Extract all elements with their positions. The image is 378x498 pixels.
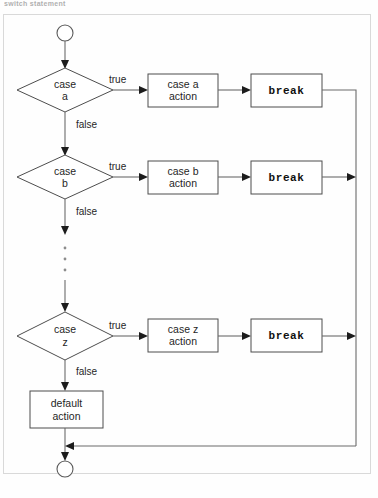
decision-case-z-line2: z: [62, 336, 67, 348]
arrowhead-break-z-to-rail: [347, 332, 356, 340]
action-case-a-line2: action: [169, 90, 197, 102]
decision-case-b-line2: b: [62, 177, 68, 189]
end-terminator: [57, 461, 73, 477]
arrowhead-action-a-to-break-a: [242, 86, 251, 94]
arrowhead-action-z-to-break-z: [242, 332, 251, 340]
label-false-case-a: false: [76, 119, 98, 130]
action-case-z-line2: action: [169, 335, 197, 347]
arrowhead-case-a-true: [139, 86, 148, 94]
break-case-b-label: break: [268, 172, 304, 184]
label-true-case-a: true: [109, 74, 127, 85]
break-case-a-label: break: [268, 85, 304, 97]
arrowhead-case-z-false: [61, 382, 69, 391]
action-case-a-line1: case a: [168, 78, 199, 90]
decision-case-a-line2: a: [62, 90, 68, 102]
page-canvas: switch statement case a true case a acti…: [0, 0, 378, 498]
label-false-case-z: false: [76, 366, 98, 377]
break-case-z-label: break: [268, 330, 304, 342]
arrowhead-action-b-to-break-b: [242, 173, 251, 181]
flowchart-canvas: case a true case a action break false ca…: [0, 0, 378, 498]
vertical-ellipsis-icon: [64, 247, 67, 272]
start-terminator: [57, 25, 73, 41]
decision-case-b-line1: case: [54, 165, 76, 177]
arrowhead-to-end-terminator: [61, 452, 69, 461]
label-false-case-b: false: [76, 206, 98, 217]
arrowhead-case-z-true: [139, 332, 148, 340]
label-true-case-b: true: [109, 161, 127, 172]
action-case-b-line2: action: [169, 177, 197, 189]
action-case-z-line1: case z: [168, 323, 198, 335]
action-case-b-line1: case b: [168, 165, 199, 177]
label-true-case-z: true: [109, 320, 127, 331]
arrowhead-case-b-true: [139, 173, 148, 181]
edge-break-a-to-rail: [322, 90, 356, 446]
arrowhead-case-b-false: [61, 226, 69, 235]
action-default-line1: default: [51, 397, 83, 409]
arrowhead-ellipsis-to-case-z: [61, 303, 69, 312]
decision-case-z-line1: case: [54, 323, 76, 335]
action-default-line2: action: [52, 410, 80, 422]
arrowhead-break-b-to-rail: [347, 173, 356, 181]
decision-case-a-line1: case: [54, 78, 76, 90]
arrowhead-rail-merge-return: [65, 442, 74, 450]
